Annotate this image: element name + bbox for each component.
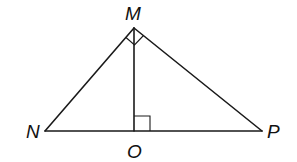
label-o: O <box>127 141 142 162</box>
triangle-diagram: M N O P <box>0 0 297 162</box>
label-n: N <box>26 121 40 142</box>
label-p: P <box>267 121 280 142</box>
segment-mp <box>134 28 262 131</box>
segment-mn <box>45 28 134 131</box>
right-angle-marker-o <box>134 116 150 131</box>
label-m: M <box>125 3 141 24</box>
